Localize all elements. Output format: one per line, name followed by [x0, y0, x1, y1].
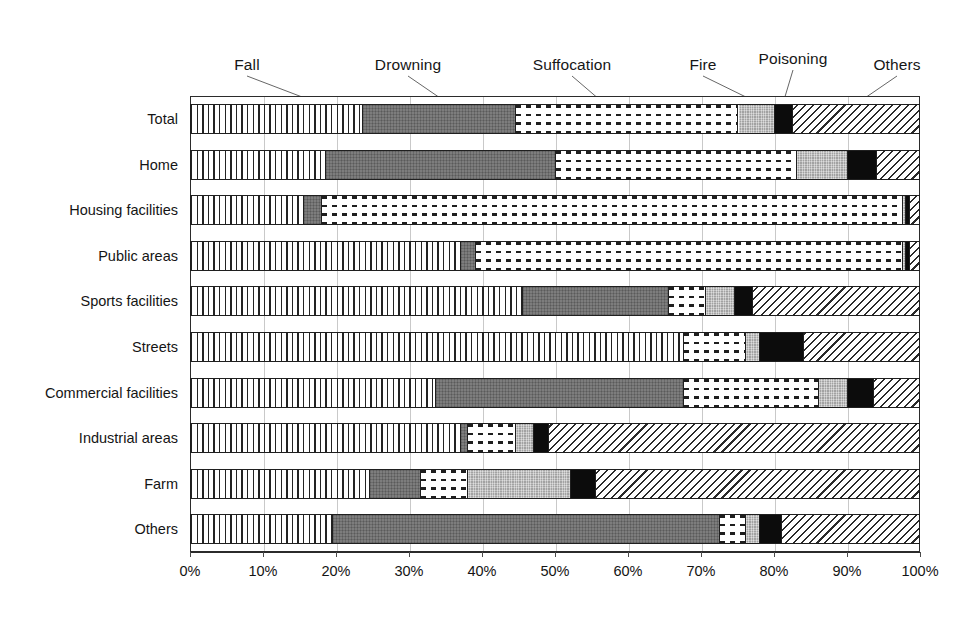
segment-fire[interactable]: [706, 287, 735, 315]
stacked-bar[interactable]: [190, 286, 920, 316]
x-tick-label-80%: 80%: [759, 563, 788, 579]
segment-suffocation[interactable]: [684, 379, 819, 407]
segment-others[interactable]: [804, 333, 920, 361]
segment-fall[interactable]: [191, 470, 370, 498]
segment-poisoning[interactable]: [534, 424, 549, 452]
category-label-commercial-facilities: Commercial facilities: [8, 378, 178, 408]
bar-row: Public areas: [190, 241, 920, 271]
segment-others[interactable]: [549, 424, 920, 452]
segment-fall[interactable]: [191, 333, 684, 361]
segment-drowning[interactable]: [363, 105, 516, 133]
category-label-total: Total: [8, 104, 178, 134]
stacked-bar[interactable]: [190, 195, 920, 225]
tick-mark: [847, 552, 848, 557]
segment-fire[interactable]: [819, 379, 848, 407]
bar-row: Others: [190, 514, 920, 544]
series-callout-fire: Fire: [689, 56, 716, 74]
segment-suffocation[interactable]: [556, 151, 797, 179]
bar-row: Industrial areas: [190, 423, 920, 453]
stacked-bar[interactable]: [190, 150, 920, 180]
segment-drowning[interactable]: [436, 379, 684, 407]
segment-fall[interactable]: [191, 379, 436, 407]
x-tick-label-30%: 30%: [394, 563, 423, 579]
bar-row: Sports facilities: [190, 286, 920, 316]
x-tick-label-100%: 100%: [901, 563, 938, 579]
segment-drowning[interactable]: [326, 151, 556, 179]
x-tick-label-10%: 10%: [248, 563, 277, 579]
segment-fall[interactable]: [191, 151, 326, 179]
segment-drowning[interactable]: [333, 515, 720, 543]
stacked-bar-chart: FallDrowningSuffocationFirePoisoningOthe…: [0, 0, 968, 617]
stacked-bar[interactable]: [190, 104, 920, 134]
segment-others[interactable]: [782, 515, 920, 543]
category-label-others: Others: [8, 514, 178, 544]
segment-poisoning[interactable]: [735, 287, 753, 315]
segment-fire[interactable]: [739, 105, 776, 133]
segment-fire[interactable]: [468, 470, 570, 498]
segment-others[interactable]: [877, 151, 920, 179]
segment-drowning[interactable]: [304, 196, 322, 224]
segment-drowning[interactable]: [370, 470, 421, 498]
segment-poisoning[interactable]: [848, 151, 877, 179]
segment-suffocation[interactable]: [421, 470, 468, 498]
bar-row: Streets: [190, 332, 920, 362]
series-callout-poisoning: Poisoning: [759, 50, 828, 68]
segment-others[interactable]: [793, 105, 920, 133]
segment-fall[interactable]: [191, 105, 363, 133]
segment-poisoning[interactable]: [571, 470, 597, 498]
series-callout-layer: FallDrowningSuffocationFirePoisoningOthe…: [0, 0, 968, 100]
segment-poisoning[interactable]: [760, 515, 782, 543]
segment-suffocation[interactable]: [476, 242, 903, 270]
segment-others[interactable]: [910, 196, 920, 224]
tick-mark: [409, 552, 410, 557]
segment-poisoning[interactable]: [848, 379, 874, 407]
x-tick-label-40%: 40%: [467, 563, 496, 579]
category-label-housing-facilities: Housing facilities: [8, 195, 178, 225]
segment-suffocation[interactable]: [720, 515, 746, 543]
x-tick-label-70%: 70%: [686, 563, 715, 579]
segment-drowning[interactable]: [461, 242, 476, 270]
stacked-bar[interactable]: [190, 332, 920, 362]
bar-row: Housing facilities: [190, 195, 920, 225]
segment-fall[interactable]: [191, 242, 461, 270]
segment-poisoning[interactable]: [775, 105, 793, 133]
bar-row: Commercial facilities: [190, 378, 920, 408]
stacked-bar[interactable]: [190, 469, 920, 499]
segment-others[interactable]: [753, 287, 920, 315]
segment-fall[interactable]: [191, 287, 523, 315]
tick-mark: [555, 552, 556, 557]
x-tick-label-90%: 90%: [832, 563, 861, 579]
segment-suffocation[interactable]: [669, 287, 706, 315]
segment-others[interactable]: [596, 470, 920, 498]
series-callout-others: Others: [873, 56, 920, 74]
segment-suffocation[interactable]: [468, 424, 515, 452]
tick-mark: [336, 552, 337, 557]
segment-fall[interactable]: [191, 424, 461, 452]
segment-fire[interactable]: [746, 515, 761, 543]
segment-drowning[interactable]: [461, 424, 468, 452]
callout-leader-lines: [0, 0, 968, 100]
segment-suffocation[interactable]: [684, 333, 746, 361]
stacked-bar[interactable]: [190, 241, 920, 271]
segment-suffocation[interactable]: [516, 105, 739, 133]
x-tick-label-20%: 20%: [321, 563, 350, 579]
stacked-bar[interactable]: [190, 514, 920, 544]
segment-poisoning[interactable]: [760, 333, 804, 361]
segment-others[interactable]: [874, 379, 920, 407]
segment-fall[interactable]: [191, 515, 333, 543]
tick-mark: [701, 552, 702, 557]
category-label-streets: Streets: [8, 332, 178, 362]
segment-fire[interactable]: [746, 333, 761, 361]
stacked-bar[interactable]: [190, 423, 920, 453]
segment-suffocation[interactable]: [322, 196, 902, 224]
stacked-bar[interactable]: [190, 378, 920, 408]
segment-fire[interactable]: [797, 151, 848, 179]
segment-others[interactable]: [910, 242, 920, 270]
series-callout-drowning: Drowning: [375, 56, 441, 74]
segment-drowning[interactable]: [523, 287, 669, 315]
category-label-industrial-areas: Industrial areas: [8, 423, 178, 453]
x-tick-label-60%: 60%: [613, 563, 642, 579]
segment-fall[interactable]: [191, 196, 304, 224]
segment-fire[interactable]: [516, 424, 534, 452]
bar-row: Farm: [190, 469, 920, 499]
